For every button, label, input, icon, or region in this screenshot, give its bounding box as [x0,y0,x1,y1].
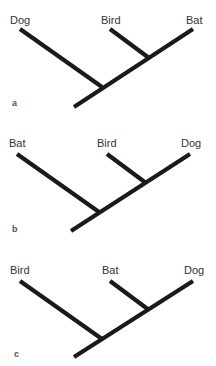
branch-trunk-to-right-tip [74,29,193,107]
branch-middle-tip [107,154,146,183]
taxon-label-bird: Bird [101,14,121,26]
taxon-label-dog: Dog [181,137,201,149]
tree-panel-b: BatBirdDogb [9,137,201,234]
branch-trunk-to-right-tip [71,154,190,231]
panel-letter: b [12,224,18,234]
taxon-label-dog: Dog [10,14,30,26]
panels: DogBirdBataBatBirdDogbBirdBatDogc [9,14,204,359]
branch-left-tip [17,154,99,212]
branch-left-tip [20,281,102,339]
tree-panel-a: DogBirdBata [10,14,203,108]
phylogenetic-trees-figure: DogBirdBataBatBirdDogbBirdBatDogc [0,0,216,366]
taxon-label-dog: Dog [184,264,204,276]
taxon-label-bat: Bat [102,264,119,276]
taxon-label-bat: Bat [9,137,26,149]
branch-trunk-to-right-tip [74,281,193,357]
panel-letter: a [12,98,18,108]
panel-letter: c [14,349,19,359]
branch-left-tip [20,29,102,87]
taxon-label-bird: Bird [10,264,30,276]
branch-middle-tip [110,281,149,310]
taxon-label-bat: Bat [186,14,203,26]
tree-panel-c: BirdBatDogc [10,264,204,359]
branch-middle-tip [110,29,149,58]
taxon-label-bird: Bird [97,137,117,149]
